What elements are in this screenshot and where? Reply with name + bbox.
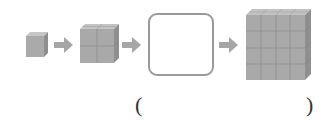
cube-2x2x2	[80, 24, 120, 64]
close-parenthesis: )	[306, 92, 313, 118]
answer-blank[interactable]	[150, 95, 300, 117]
cube-4x4x4	[246, 9, 312, 81]
missing-figure-box	[148, 13, 214, 76]
cube-1x1x1	[26, 32, 50, 58]
arrow-right-icon	[122, 37, 142, 53]
open-parenthesis: (	[135, 92, 142, 118]
arrow-right-icon	[54, 37, 74, 53]
arrow-right-icon	[219, 37, 239, 53]
